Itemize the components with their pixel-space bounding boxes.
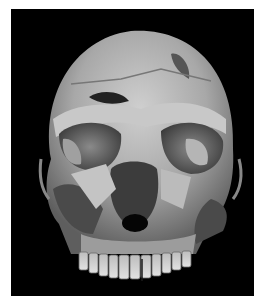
teeth bbox=[79, 251, 191, 279]
nasal-hole bbox=[122, 214, 148, 232]
skull-illustration bbox=[11, 9, 254, 296]
skull-photo bbox=[11, 9, 254, 296]
